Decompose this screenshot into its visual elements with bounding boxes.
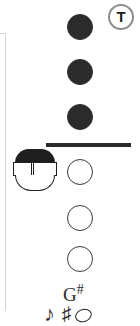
hole-3[interactable]	[67, 104, 93, 130]
key-pad-row	[13, 162, 57, 176]
hole-6[interactable]	[67, 246, 93, 272]
key-pad-right[interactable]	[33, 162, 57, 176]
clef-icon: ♪	[44, 303, 55, 325]
key-pad-left[interactable]	[13, 162, 32, 176]
panel-divider	[5, 33, 6, 311]
hole-2[interactable]	[67, 59, 93, 85]
staff-notation: ♪ ♯	[44, 301, 136, 323]
hole-4[interactable]	[67, 159, 93, 185]
hole-5[interactable]	[67, 205, 93, 231]
notehead-icon	[73, 307, 93, 325]
key-cap-icon	[15, 149, 55, 163]
thumb-badge-icon[interactable]: T	[108, 4, 134, 30]
hole-1[interactable]	[67, 14, 93, 40]
note-accidental: #	[77, 282, 84, 297]
left-key-mechanism[interactable]	[13, 149, 57, 191]
thumb-label: T	[116, 9, 125, 24]
key-bowl-icon	[15, 175, 55, 191]
hand-divider-bar	[46, 143, 131, 147]
sharp-sign-icon: ♯	[62, 304, 72, 323]
